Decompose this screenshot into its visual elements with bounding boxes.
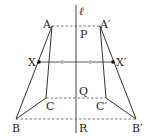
label-R: R	[79, 122, 88, 135]
label-P: P	[80, 28, 88, 41]
label-C-prime: C′	[96, 100, 107, 113]
label-X: X	[28, 56, 36, 69]
point-X-dot	[37, 60, 41, 64]
reflection-diagram: ℓ A A′ P X X′ Q C C′ B R B′	[0, 0, 148, 136]
label-X-prime: X′	[116, 56, 127, 69]
label-C: C	[46, 100, 54, 113]
label-B-prime: B′	[132, 122, 143, 135]
label-A: A	[42, 18, 52, 31]
point-X'-dot	[111, 60, 115, 64]
label-B: B	[12, 122, 20, 135]
label-A-prime: A′	[99, 18, 111, 31]
tick-mark-right	[89, 60, 92, 64]
label-Q: Q	[79, 85, 88, 98]
axis-label-l: ℓ	[79, 5, 84, 18]
tick-mark-left	[61, 60, 64, 64]
diagram-canvas: ℓ A A′ P X X′ Q C C′ B R B′	[0, 0, 148, 136]
